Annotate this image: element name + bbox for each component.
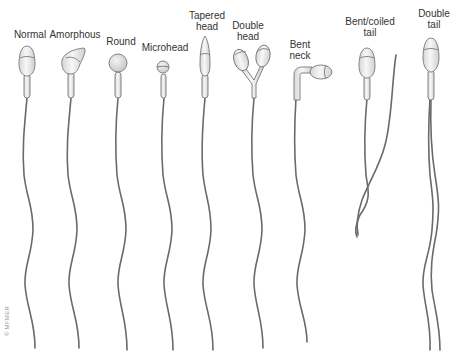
head-normal: [19, 46, 35, 76]
midpiece-bent-neck: [294, 67, 312, 100]
head-amorphous: [62, 48, 85, 74]
midpiece-microhead: [161, 74, 166, 98]
head-round: [109, 54, 127, 72]
tail-tapered: [202, 98, 213, 350]
head-double-left: [231, 47, 251, 72]
midpiece-round: [115, 72, 121, 98]
head-bent-coiled: [359, 48, 375, 78]
midpiece-tapered: [202, 74, 208, 98]
tail-amorphous: [67, 98, 79, 348]
tail-bent-coiled-b: [357, 55, 396, 235]
head-bent-neck: [310, 65, 332, 79]
tail-microhead: [162, 98, 173, 350]
midpiece-bent-coiled: [364, 76, 370, 100]
tail-double-head: [252, 98, 263, 348]
head-double-right: [254, 44, 272, 68]
midpiece-amorphous: [68, 72, 74, 98]
tail-normal: [23, 98, 35, 348]
sperm-illustration: [0, 0, 456, 358]
tail-round: [116, 98, 127, 350]
midpiece-double-tail: [428, 70, 434, 100]
head-tapered: [200, 36, 210, 76]
midpiece-normal: [24, 74, 30, 98]
head-double-tail: [423, 38, 439, 72]
tail-bent-neck: [295, 98, 308, 342]
